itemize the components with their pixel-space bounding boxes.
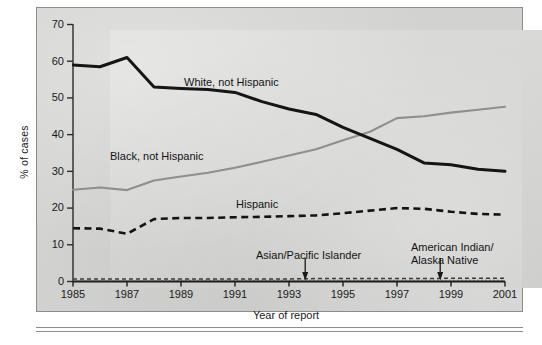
footer-rule-top (36, 327, 523, 328)
series-label-american-indian-alaska-native: American Indian/ Alaska Native (411, 241, 494, 267)
xtick-label-1993: 1993 (267, 288, 311, 300)
xtick-label-2001: 2001 (483, 288, 527, 300)
xtick-label-1995: 1995 (321, 288, 365, 300)
american-indian-label-line2: Alaska Native (411, 254, 478, 266)
series-label-asian-pacific-islander: Asian/Pacific Islander (256, 249, 361, 262)
ytick-label-20: 20 (40, 201, 64, 213)
ytick-label-60: 60 (40, 55, 64, 67)
y-tick-marks (67, 25, 73, 282)
series-line-hispanic (73, 208, 505, 234)
xtick-label-1997: 1997 (375, 288, 419, 300)
ytick-label-10: 10 (40, 238, 64, 250)
series-label-hispanic: Hispanic (236, 198, 278, 211)
xtick-label-1989: 1989 (159, 288, 203, 300)
american-indian-label-line1: American Indian/ (411, 241, 494, 253)
series-line-black-not-hispanic (73, 107, 505, 190)
ytick-label-40: 40 (40, 128, 64, 140)
xtick-label-1991: 1991 (213, 288, 257, 300)
x-axis-title: Year of report (196, 309, 376, 321)
xtick-label-1985: 1985 (51, 288, 95, 300)
y-axis-title: % of cases (18, 112, 30, 192)
american-indian-alaska-native-arrowhead (437, 272, 443, 281)
xtick-label-1987: 1987 (105, 288, 149, 300)
footer-rule-bottom (36, 331, 523, 332)
ytick-label-30: 30 (40, 165, 64, 177)
series-label-black-not-hispanic: Black, not Hispanic (110, 150, 204, 163)
ytick-label-50: 50 (40, 91, 64, 103)
series-label-white-not-hispanic: White, not Hispanic (184, 76, 279, 89)
ytick-label-0: 0 (40, 275, 64, 287)
xtick-label-1999: 1999 (429, 288, 473, 300)
ytick-label-70: 70 (40, 18, 64, 30)
